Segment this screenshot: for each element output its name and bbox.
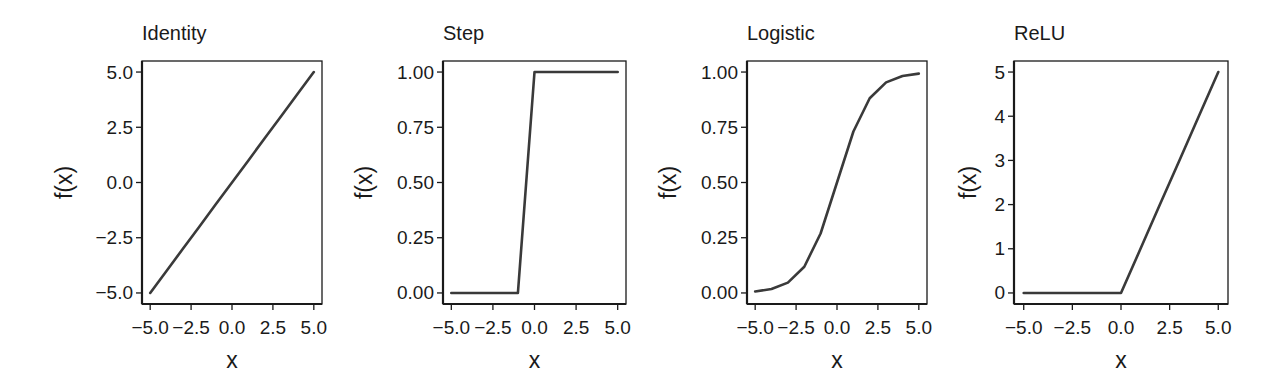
x-tick-label: 2.5 [563, 317, 589, 338]
y-tick-label: 1.00 [397, 62, 434, 83]
y-tick-label: 0.00 [397, 282, 434, 303]
y-tick-label: 0.75 [701, 117, 738, 138]
x-tick-label: −2.5 [777, 317, 815, 338]
y-axis: 0.000.250.500.751.00 [397, 61, 443, 304]
panel-relu: ReLU f(x) x 012345 −5.0−2.50.02.55.0 [955, 22, 1231, 373]
y-tick-label: 0.50 [701, 172, 738, 193]
y-axis-label: f(x) [351, 166, 377, 199]
y-axis-label: f(x) [655, 166, 681, 199]
y-tick-label: 0.25 [397, 227, 434, 248]
x-axis-label: x [226, 347, 238, 373]
x-tick-label: −2.5 [1054, 317, 1092, 338]
y-tick-label: 0.0 [107, 172, 133, 193]
y-tick-label: 0.00 [701, 282, 738, 303]
x-tick-label: 5.0 [906, 317, 932, 338]
y-tick-label: 0.50 [397, 172, 434, 193]
x-tick-label: 5.0 [604, 317, 630, 338]
y-tick-label: 1 [994, 238, 1005, 259]
panel-title: Logistic [747, 22, 815, 44]
y-tick-label: 2.5 [107, 117, 133, 138]
panel-title: ReLU [1014, 22, 1065, 44]
panel-logistic: Logistic f(x) x 0.000.250.500.751.00 −5.… [655, 22, 932, 373]
panel-title: Step [443, 22, 484, 44]
panel-identity: Identity f(x) x −5.0−2.50.02.55.0 −5.0−2… [51, 22, 327, 373]
y-tick-label: 5 [994, 62, 1005, 83]
y-tick-label: 0.75 [397, 117, 434, 138]
x-tick-label: 0.0 [1108, 317, 1134, 338]
y-tick-label: 0.25 [701, 227, 738, 248]
x-axis: −5.0−2.50.02.55.0 [1005, 304, 1232, 338]
x-axis: −5.0−2.50.02.55.0 [131, 304, 327, 338]
x-tick-label: 0.0 [219, 317, 245, 338]
x-axis-label: x [1115, 347, 1127, 373]
x-tick-label: −5.0 [1005, 317, 1043, 338]
x-axis-label: x [831, 347, 843, 373]
x-tick-label: −2.5 [474, 317, 512, 338]
panel-title: Identity [142, 22, 206, 44]
plot-area [443, 61, 626, 304]
x-tick-label: 2.5 [260, 317, 286, 338]
x-tick-label: 2.5 [1156, 317, 1182, 338]
x-tick-label: 0.0 [824, 317, 850, 338]
y-tick-label: 1.00 [701, 62, 738, 83]
x-tick-label: −5.0 [131, 317, 169, 338]
panel-step: Step f(x) x 0.000.250.500.751.00 −5.0−2.… [351, 22, 631, 373]
x-axis: −5.0−2.50.02.55.0 [736, 304, 932, 338]
y-tick-label: 4 [994, 106, 1005, 127]
y-tick-label: −2.5 [95, 227, 133, 248]
x-tick-label: −5.0 [433, 317, 471, 338]
x-axis: −5.0−2.50.02.55.0 [433, 304, 631, 338]
y-tick-label: 5.0 [107, 62, 133, 83]
x-tick-label: −5.0 [736, 317, 774, 338]
y-axis: 012345 [994, 61, 1014, 304]
figure-canvas: Identity f(x) x −5.0−2.50.02.55.0 −5.0−2… [0, 0, 1277, 392]
y-axis-label: f(x) [51, 166, 77, 199]
y-axis: 0.000.250.500.751.00 [701, 61, 747, 304]
y-axis-label: f(x) [955, 166, 981, 199]
y-tick-label: 2 [994, 194, 1005, 215]
x-tick-label: 0.0 [521, 317, 547, 338]
x-tick-label: 5.0 [1205, 317, 1231, 338]
x-tick-label: −2.5 [172, 317, 210, 338]
y-tick-label: 0 [994, 282, 1005, 303]
y-tick-label: −5.0 [95, 282, 133, 303]
x-tick-label: 2.5 [865, 317, 891, 338]
activation-functions-figure: Identity f(x) x −5.0−2.50.02.55.0 −5.0−2… [0, 0, 1277, 392]
plot-area [1014, 61, 1228, 304]
y-axis: −5.0−2.50.02.55.0 [95, 61, 142, 304]
y-tick-label: 3 [994, 150, 1005, 171]
x-axis-label: x [529, 347, 541, 373]
x-tick-label: 5.0 [301, 317, 327, 338]
